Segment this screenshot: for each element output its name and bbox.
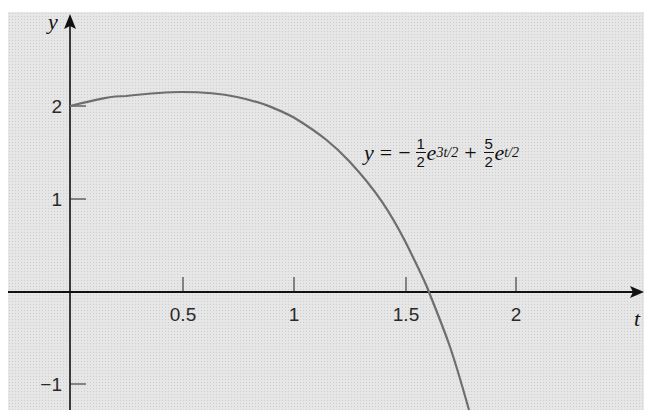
x-tick-label: 0.5	[170, 304, 196, 325]
eq-fraction-2: 5 2	[484, 136, 494, 169]
eq-minus: −	[398, 140, 410, 166]
eq-fraction-1: 1 2	[416, 136, 426, 169]
eq-exp2-power: t/2	[504, 145, 519, 161]
eq-exp1-power: 3t/2	[436, 145, 458, 161]
x-tick-label: 1.5	[393, 304, 419, 325]
eq-lhs: y	[364, 140, 374, 166]
x-axis-label: t	[634, 306, 641, 331]
frac1-numerator: 1	[416, 136, 424, 151]
frac2-numerator: 5	[484, 136, 492, 151]
x-tick-label: 2	[511, 304, 522, 325]
frac1-denominator: 2	[416, 154, 424, 169]
eq-exp1-base: e	[427, 140, 437, 166]
eq-exp2-base: e	[495, 140, 505, 166]
eq-plus: +	[464, 140, 476, 166]
y-tick-label: −1	[40, 374, 62, 395]
y-tick-label: 2	[51, 96, 62, 117]
x-tick-label: 1	[289, 304, 300, 325]
eq-equals: =	[380, 140, 392, 166]
chart-svg: 0.5 1 1.5 2 2 1 −1 y t	[0, 0, 647, 417]
equation-annotation: y = − 1 2 e3t/2 + 5 2 et/2	[364, 136, 519, 169]
y-axis-label: y	[46, 9, 58, 34]
y-tick-label: 1	[51, 189, 62, 210]
frac2-denominator: 2	[484, 154, 492, 169]
y-ticks	[70, 106, 86, 384]
x-ticks	[183, 277, 516, 292]
